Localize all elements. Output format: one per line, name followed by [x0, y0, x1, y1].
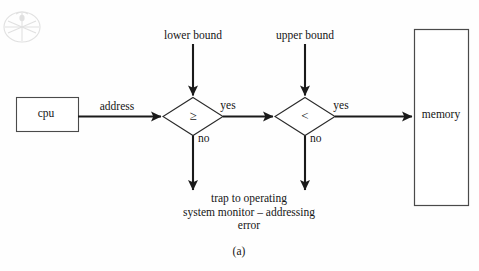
- trap-message-text: trap to operating system monitor – addre…: [183, 192, 315, 233]
- yes-label-lower-check: yes: [220, 100, 235, 112]
- figure-canvas: lower bound upper bound cpu address memo…: [0, 0, 479, 271]
- less-than-icon: <: [301, 109, 308, 122]
- greater-than-or-equal-icon: ≥: [189, 109, 196, 122]
- trap-message-line-3: error: [183, 219, 315, 233]
- address-label: address: [100, 101, 135, 113]
- yes-label-upper-check: yes: [333, 100, 348, 112]
- upper-bound-label: upper bound: [276, 30, 334, 42]
- memory-label: memory: [422, 109, 460, 121]
- figure-caption: (a): [233, 246, 246, 258]
- lower-bound-label: lower bound: [164, 30, 222, 42]
- no-label-lower-check: no: [198, 133, 210, 145]
- trap-message-line-1: trap to operating: [183, 192, 315, 206]
- cpu-label: cpu: [38, 108, 55, 120]
- no-label-upper-check: no: [310, 133, 322, 145]
- trap-message-line-2: system monitor – addressing: [183, 206, 315, 220]
